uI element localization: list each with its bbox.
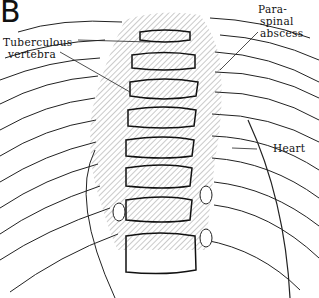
label-paraspinal-line2: spinal: [258, 15, 303, 27]
paraspinal-abscess-shading: [90, 12, 221, 250]
label-tuberculous: Tuberculous vertebra: [3, 36, 73, 60]
label-tuberculous-line2: vertebra: [3, 48, 73, 60]
label-tuberculous-line1: Tuberculous: [3, 36, 73, 48]
label-heart: Heart: [273, 142, 305, 154]
label-paraspinal-line1: Para-: [258, 3, 303, 15]
label-paraspinal-line3: abscess: [258, 27, 303, 39]
label-paraspinal-abscess: Para- spinal abscess: [258, 3, 303, 39]
